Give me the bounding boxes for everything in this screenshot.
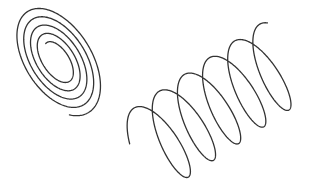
figure-canvas — [0, 0, 312, 179]
background — [0, 0, 312, 179]
